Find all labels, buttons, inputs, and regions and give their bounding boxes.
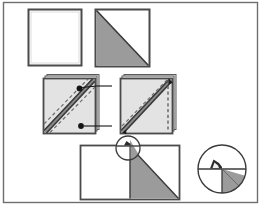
step-4-folded-square-trim xyxy=(121,75,177,135)
sewing-diagram xyxy=(0,0,262,213)
marker-dot-bottom xyxy=(78,123,84,129)
figure-canvas xyxy=(0,0,262,213)
step-2-shaded-square xyxy=(96,10,150,67)
marker-dot-top xyxy=(77,86,83,92)
step-1-plain-square xyxy=(29,10,82,66)
detail-circle-magnified xyxy=(198,145,246,193)
plain-square-outline xyxy=(29,10,82,66)
